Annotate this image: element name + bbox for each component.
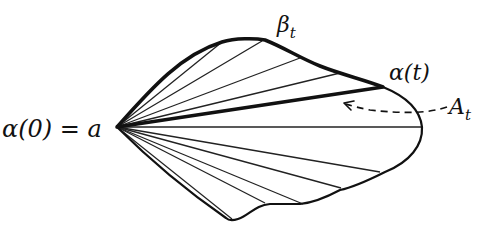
label-alpha-zero-equals-a: α(0) = a bbox=[2, 115, 102, 143]
area-leader-dashed bbox=[346, 104, 447, 112]
label-area-main: A bbox=[447, 94, 465, 119]
chord-a-to-alpha-t bbox=[117, 87, 383, 127]
diagram-canvas: α(0) = a βt α(t) At bbox=[0, 0, 493, 228]
label-area-subscript: t bbox=[465, 106, 472, 124]
chord-fan bbox=[117, 41, 421, 219]
label-beta-t: βt bbox=[276, 12, 297, 42]
label-area-a-t: At bbox=[447, 94, 472, 124]
label-beta-subscript: t bbox=[290, 24, 297, 42]
beta-t-curve bbox=[117, 39, 383, 127]
label-beta-main: β bbox=[276, 12, 290, 37]
label-alpha-t: α(t) bbox=[389, 60, 430, 85]
